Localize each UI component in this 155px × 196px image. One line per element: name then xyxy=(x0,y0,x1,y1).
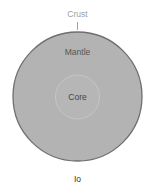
mantle-label: Mantle xyxy=(65,47,91,57)
crust-label: Crust xyxy=(67,9,87,19)
core-label: Core xyxy=(68,92,86,102)
diagram-title: Io xyxy=(74,174,81,184)
